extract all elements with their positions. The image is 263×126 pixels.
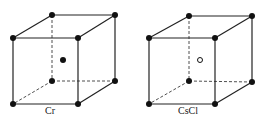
corner-atom bbox=[212, 35, 218, 41]
cscl-unit-cell bbox=[146, 13, 255, 107]
cube-edge bbox=[78, 81, 115, 104]
cube-edge bbox=[149, 16, 189, 38]
corner-atom bbox=[186, 13, 192, 19]
body-center-atom bbox=[198, 58, 203, 63]
corner-atom bbox=[249, 79, 255, 85]
corner-atom bbox=[146, 35, 152, 41]
cube-edge bbox=[13, 15, 52, 38]
cr-label: Cr bbox=[45, 105, 56, 116]
hidden-edge bbox=[189, 81, 252, 82]
corner-atom bbox=[146, 101, 152, 107]
corner-atom bbox=[49, 12, 55, 18]
corner-atom bbox=[249, 13, 255, 19]
cr-unit-cell bbox=[10, 12, 118, 107]
corner-atom bbox=[212, 101, 218, 107]
corner-atom bbox=[75, 35, 81, 41]
corner-atom bbox=[112, 12, 118, 18]
corner-atom bbox=[49, 78, 55, 84]
hidden-edge bbox=[13, 81, 52, 104]
cscl-label: CsCl bbox=[178, 105, 198, 116]
corner-atom bbox=[10, 35, 16, 41]
cube-edge bbox=[215, 16, 252, 38]
unit-cell-diagrams: Cr CsCl bbox=[0, 0, 263, 126]
corner-atom bbox=[112, 78, 118, 84]
corner-atom bbox=[10, 101, 16, 107]
cube-edge bbox=[215, 82, 252, 104]
corner-atom bbox=[186, 78, 192, 84]
corner-atom bbox=[75, 101, 81, 107]
cube-edge bbox=[78, 15, 115, 38]
hidden-edge bbox=[149, 81, 189, 104]
body-center-atom bbox=[60, 57, 66, 63]
